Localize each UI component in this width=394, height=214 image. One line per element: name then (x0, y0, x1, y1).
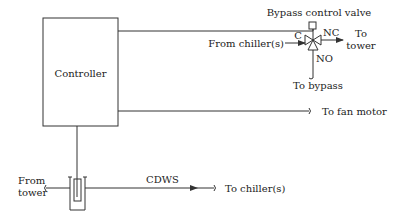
valve-title: Bypass control valve (267, 7, 372, 18)
valve-port-nc: NC (323, 27, 340, 38)
control-diagram: Controller Bypass control valve From chi… (0, 0, 394, 214)
valve-inlet-label: From chiller(s) (208, 38, 284, 49)
flow-arrow-icon (190, 185, 198, 191)
valve-bypass-label: To bypass (293, 80, 343, 91)
valve-outlet-label-2: tower (346, 40, 376, 51)
from-tower-label-1: From (18, 175, 46, 186)
cdws-pipe: From tower CDWS To chiller(s) (18, 174, 285, 198)
fan-motor-label: To fan motor (322, 106, 387, 117)
controller-label: Controller (54, 68, 106, 79)
valve-outlet-label-1: To (355, 28, 367, 39)
fan-motor-output: To fan motor (118, 106, 387, 117)
cdws-label: CDWS (146, 174, 179, 185)
valve-signal-line (118, 29, 313, 31)
valve-port-no: NO (316, 53, 333, 64)
to-chillers-label: To chiller(s) (225, 183, 285, 194)
valve-port-c: C (294, 30, 302, 41)
bypass-valve: Bypass control valve From chiller(s) C N… (208, 7, 376, 91)
controller-block: Controller (43, 18, 118, 126)
valve-actuator-icon (309, 22, 316, 29)
from-tower-label-2: tower (18, 187, 48, 198)
